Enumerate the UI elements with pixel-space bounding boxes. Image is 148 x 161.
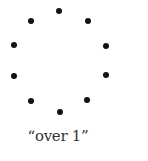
dot-8	[84, 97, 90, 103]
dot-3	[11, 42, 17, 48]
dot-diagram: “over 1”	[0, 0, 148, 161]
dot-7	[28, 98, 34, 104]
dot-2	[85, 18, 91, 24]
dot-5	[11, 73, 17, 79]
dot-0	[56, 8, 62, 14]
dot-6	[103, 72, 109, 78]
dot-9	[57, 109, 63, 115]
dot-4	[103, 43, 109, 49]
dot-1	[28, 18, 34, 24]
caption-label: “over 1”	[0, 127, 116, 145]
